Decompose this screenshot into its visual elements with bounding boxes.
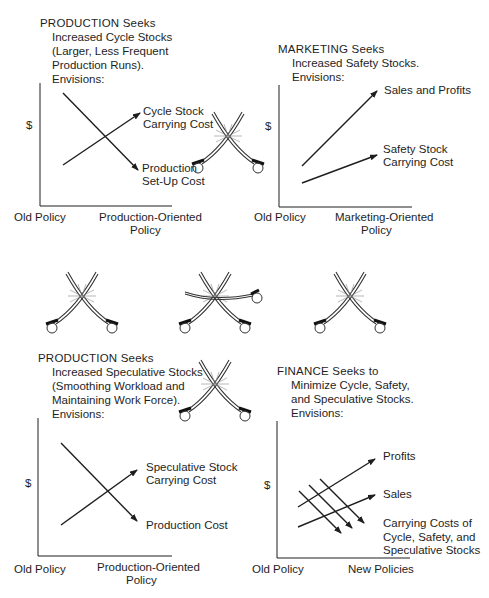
panel-description-line: Minimize Cycle, Safety,	[291, 378, 410, 392]
y-axis-label: $	[265, 119, 271, 133]
y-axis-label: $	[264, 478, 270, 492]
series-label: Production Cost	[146, 518, 228, 532]
panel-description-line: Envisions:	[52, 72, 104, 86]
panel-heading: FINANCE Seeks to	[277, 364, 379, 378]
series-line-production-cost	[61, 443, 137, 521]
x-axis-label-left: Old Policy	[254, 210, 306, 224]
x-axis-label-right: Production-Oriented	[99, 210, 202, 224]
series-label: Production	[142, 161, 197, 175]
y-axis-label: $	[26, 118, 32, 132]
series-label: Sales	[383, 487, 412, 501]
series-label: Set-Up Cost	[142, 174, 205, 188]
series-line-cycle-stock-carrying-cost	[63, 113, 140, 165]
panel-description-line: Increased Cycle Stocks	[52, 30, 172, 44]
x-axis-label-right: Policy	[361, 223, 392, 237]
panel-description-line: Envisions:	[291, 406, 343, 420]
series-label: Carrying Cost	[143, 117, 213, 131]
x-axis-label-left: Old Policy	[14, 210, 66, 224]
panel-description-line: Envisions:	[52, 407, 104, 421]
x-axis-label-right: Policy	[126, 573, 157, 587]
panel-description-line: (Smoothing Workload and	[52, 379, 185, 393]
series-label: Carrying Cost	[383, 155, 453, 169]
panel-description-line: and Speculative Stocks.	[291, 392, 414, 406]
series-line-safety-stock-carrying-cost	[302, 155, 377, 183]
series-label: Profits	[383, 449, 416, 463]
series-label: Speculative Stocks	[383, 543, 480, 557]
series-label: Carrying Cost	[146, 473, 216, 487]
series-label: Carrying Costs of	[383, 516, 472, 530]
panel-heading: PRODUCTION Seeks	[38, 351, 154, 365]
series-label: Sales and Profits	[384, 83, 471, 97]
panel-heading: MARKETING Seeks	[278, 42, 385, 56]
panel-production-speculative-chart	[38, 418, 172, 556]
series-label: Speculative Stock	[146, 460, 237, 474]
series-label: Safety Stock	[383, 142, 448, 156]
x-axis-label-left: Old Policy	[252, 562, 304, 576]
panel-description-line: (Larger, Less Frequent	[52, 44, 168, 58]
x-axis-label-right: New Policies	[348, 562, 414, 576]
panel-description-line: Envisions:	[292, 70, 344, 84]
x-axis-label-right: Production-Oriented	[97, 560, 200, 574]
panel-description-line: Increased Safety Stocks.	[292, 56, 419, 70]
series-line-production-setup-cost	[63, 93, 138, 170]
series-label: Cycle, Safety, and	[383, 530, 475, 544]
panel-description-line: Maintaining Work Force).	[52, 393, 180, 407]
three-sabers-icon	[179, 272, 262, 333]
crossed-sabers-icon	[46, 272, 118, 333]
x-axis-label-right: Policy	[130, 223, 161, 237]
series-line-carrying-cost-3	[320, 479, 364, 523]
y-axis-label: $	[25, 476, 31, 490]
crossed-sabers-icon	[314, 272, 386, 333]
x-axis-label-left: Old Policy	[14, 562, 66, 576]
series-line-speculative-stock-carrying-cost	[61, 470, 137, 525]
panel-heading: PRODUCTION Seeks	[40, 16, 156, 30]
panel-description-line: Increased Speculative Stocks	[52, 365, 203, 379]
panel-description-line: Production Runs).	[52, 58, 144, 72]
series-line-sales-and-profits	[302, 91, 377, 166]
x-axis-label-right: Marketing-Oriented	[335, 210, 433, 224]
series-label: Cycle Stock	[143, 104, 204, 118]
